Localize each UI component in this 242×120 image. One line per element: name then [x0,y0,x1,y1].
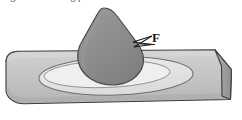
figure-container: Fig. 3.10 Welding process [0,0,242,120]
molten-droplet [78,8,144,85]
droplet-outline [78,8,144,85]
technical-illustration: F [0,0,242,120]
force-arrow-shaft [133,36,152,42]
force-vector-label: F [152,30,160,45]
